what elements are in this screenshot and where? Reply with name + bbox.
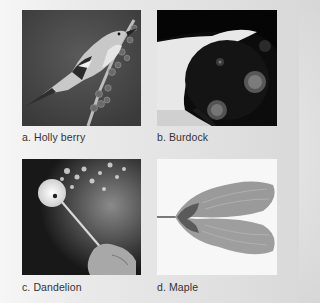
photo-maple [157,159,277,275]
seed-dispersal-figure: a. Holly berry b. Burdock [0,0,299,303]
caption-dandelion: c. Dandelion [22,281,82,293]
photo-burdock [157,10,277,126]
caption-holly-berry: a. Holly berry [22,131,85,143]
photo-holly-berry [22,10,141,126]
photo-dandelion [22,159,141,275]
caption-burdock: b. Burdock [157,131,208,143]
caption-maple: d. Maple [157,281,198,293]
